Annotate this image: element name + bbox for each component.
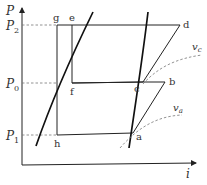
point-h-label: h [54, 138, 61, 149]
point-c-label: c [134, 83, 140, 94]
vc-label: vc [192, 41, 202, 54]
saturated-vapor-line [129, 12, 148, 148]
va-label: va [173, 102, 183, 115]
point-a-label: a [136, 131, 142, 142]
y-axis-label: P [5, 4, 15, 18]
point-d-label: d [183, 19, 190, 30]
x-axis-label: i [186, 167, 190, 181]
x-axis [22, 163, 196, 165]
p-i-diagram: P i P2 P0 P1 g e d f c b h a vc va [0, 0, 207, 185]
point-f-label: f [70, 86, 75, 97]
point-b-label: b [169, 76, 175, 87]
p2-label: P2 [5, 19, 19, 35]
point-g-label: g [53, 12, 60, 23]
p0-label: P0 [5, 77, 19, 93]
point-e-label: e [69, 12, 75, 23]
p1-label: P1 [5, 129, 19, 145]
saturated-liquid-line [36, 12, 93, 146]
